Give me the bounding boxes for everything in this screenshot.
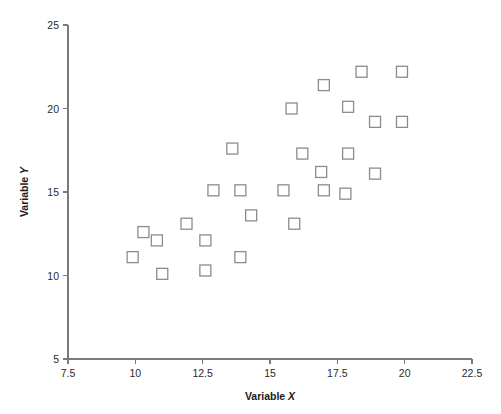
plot-canvas: 510152025 7.51012.51517.52022.5 Variable… [0, 0, 501, 414]
data-point-marker [235, 185, 246, 196]
data-point-marker [151, 235, 162, 246]
data-point-marker [127, 252, 138, 263]
data-point-marker [396, 66, 407, 77]
data-point-marker [370, 168, 381, 179]
data-point-marker [289, 218, 300, 229]
data-point-marker [235, 252, 246, 263]
y-tick-label: 5 [53, 353, 59, 365]
data-point-marker [316, 166, 327, 177]
data-point-marker [343, 101, 354, 112]
x-tick-label: 7.5 [61, 367, 76, 379]
data-point-marker [396, 116, 407, 127]
x-tick-label: 10 [129, 367, 141, 379]
data-point-marker [181, 218, 192, 229]
x-tick-label: 22.5 [462, 367, 483, 379]
data-point-marker [370, 116, 381, 127]
data-point-marker [356, 66, 367, 77]
x-axis-ticks: 7.51012.51517.52022.5 [61, 359, 483, 379]
y-tick-label: 20 [47, 103, 59, 115]
data-point-marker [246, 210, 257, 221]
data-point-marker [157, 268, 168, 279]
x-tick-label: 12.5 [192, 367, 213, 379]
y-tick-label: 10 [47, 270, 59, 282]
x-tick-label: 15 [264, 367, 276, 379]
y-tick-label: 25 [47, 19, 59, 31]
data-point-marker [278, 185, 289, 196]
y-axis-ticks: 510152025 [47, 19, 68, 365]
data-point-marker [200, 265, 211, 276]
y-tick-label: 15 [47, 186, 59, 198]
data-point-marker [286, 103, 297, 114]
data-point-marker [138, 227, 149, 238]
data-point-marker [297, 148, 308, 159]
data-point-marker [343, 148, 354, 159]
data-point-marker [200, 235, 211, 246]
data-point-marker [227, 143, 238, 154]
data-point-marker [318, 185, 329, 196]
x-tick-label: 20 [399, 367, 411, 379]
x-tick-label: 17.5 [327, 367, 348, 379]
scatter-plot-figure: 510152025 7.51012.51517.52022.5 Variable… [0, 0, 501, 414]
y-axis-title: Variable Y [18, 166, 30, 217]
x-axis-title: Variable X [245, 390, 296, 402]
data-point-marker [318, 80, 329, 91]
data-point-marker [340, 188, 351, 199]
data-point-markers [127, 66, 407, 279]
data-point-marker [208, 185, 219, 196]
